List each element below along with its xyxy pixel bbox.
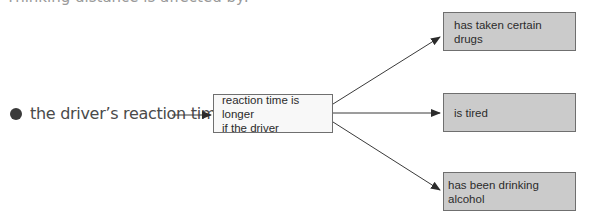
middle-box-line2: if the driver [222,121,279,135]
outcome-label: has taken certain drugs [454,18,565,46]
outcome-box-tired: is tired [443,93,576,132]
middle-box: reaction time is longer if the driver [213,94,333,133]
outcome-label: is tired [454,106,488,120]
outcome-box-drugs: has taken certain drugs [443,12,576,51]
outcome-box-alcohol: has been drinking alcohol [443,172,576,211]
middle-box-line1: reaction time is longer [222,93,324,121]
arrow-to-alcohol [333,122,440,190]
arrow-to-drugs [333,37,440,104]
outcome-label: has been drinking alcohol [448,178,571,206]
